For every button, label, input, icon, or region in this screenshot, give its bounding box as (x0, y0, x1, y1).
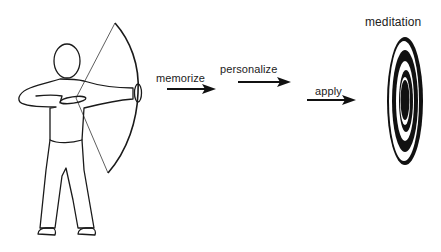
step-label-memorize: memorize (156, 72, 205, 84)
archer-legs (40, 140, 94, 228)
diagram-canvas (0, 0, 441, 252)
archer-head (54, 44, 80, 78)
bow-limb (108, 23, 138, 173)
target-icon (387, 37, 423, 165)
archer-body (19, 79, 133, 143)
arrow-memorize (167, 84, 216, 94)
archer-figure (19, 44, 142, 235)
step-label-personalize: personalize (220, 63, 277, 75)
bow-string (76, 23, 115, 173)
target-label-meditation: meditation (365, 15, 421, 29)
archer-foot-right (78, 228, 95, 235)
archer-forearm (36, 95, 62, 103)
arrow-personalize (238, 77, 291, 87)
archer-hand (60, 95, 87, 105)
step-label-apply: apply (315, 85, 342, 97)
archer-foot-left (38, 228, 55, 235)
